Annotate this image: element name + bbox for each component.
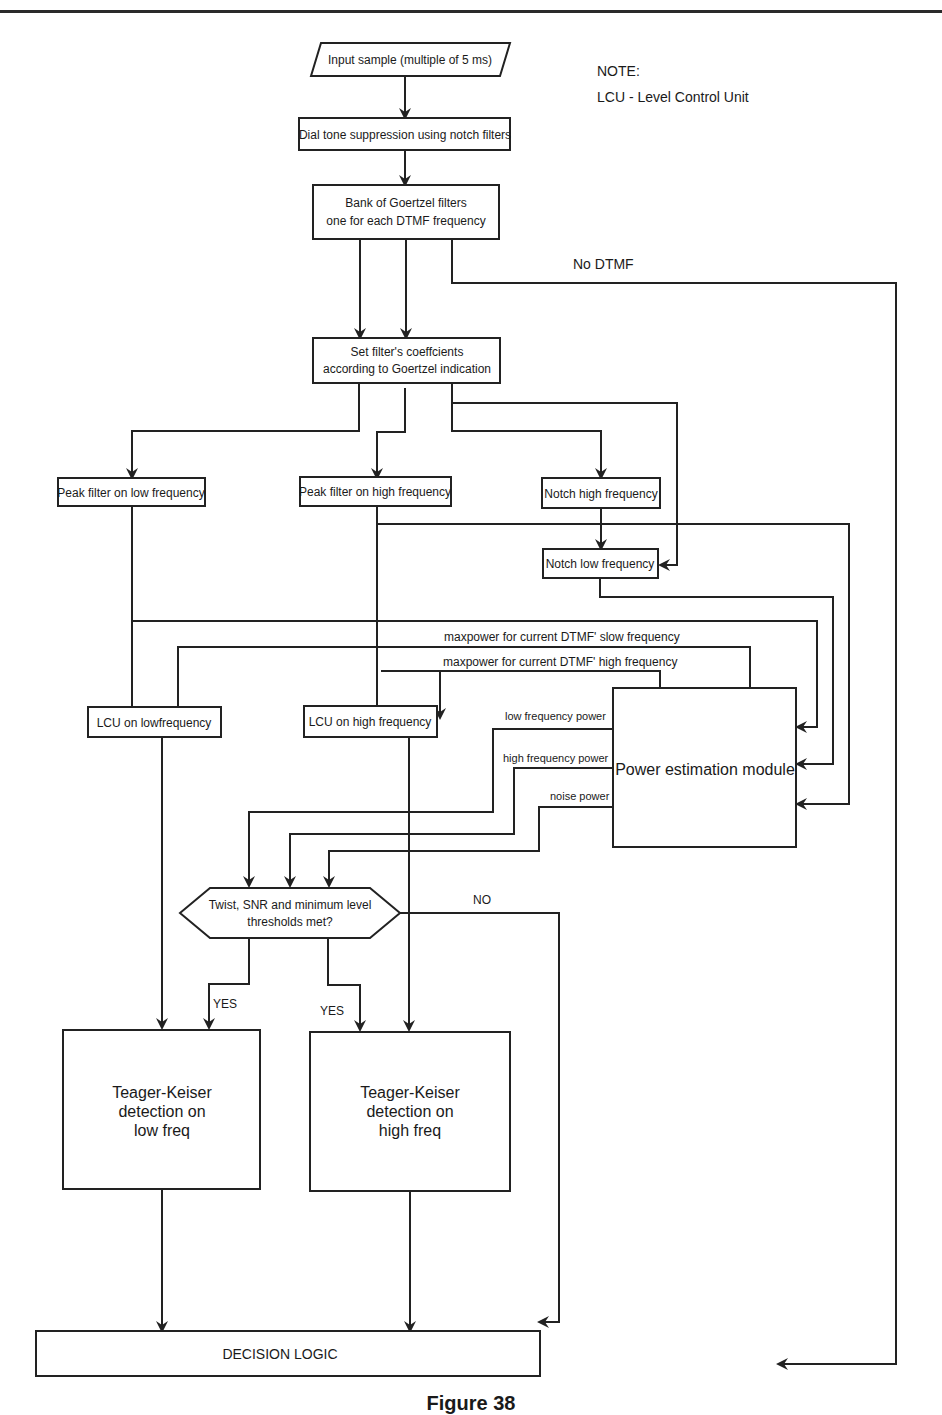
- edge-yes-left: [209, 938, 249, 1028]
- node-notch-high: Notch high frequency: [542, 478, 660, 508]
- node-tk-low-label-1: Teager-Keiser: [112, 1084, 212, 1101]
- node-lcu-low-label: LCU on lowfrequency: [97, 716, 212, 730]
- node-peak-low-label: Peak filter on low frequency: [57, 486, 204, 500]
- node-coeff-label-2: according to Goertzel indication: [323, 362, 491, 376]
- label-low-power: low frequency power: [505, 710, 606, 722]
- node-peak-high-label: Peak filter on high frequency: [299, 485, 451, 499]
- node-power-estimation-label: Power estimation module: [615, 761, 795, 778]
- node-decision-label-1: Twist, SNR and minimum level: [209, 898, 372, 912]
- node-set-coefficients: Set filter's coeffcients according to Go…: [313, 338, 500, 383]
- edge-coeff-to-peak-low: [132, 383, 359, 478]
- node-tk-low-label-3: low freq: [134, 1122, 190, 1139]
- node-dial-tone: Dial tone suppression using notch filter…: [299, 118, 511, 150]
- node-lcu-low: LCU on lowfrequency: [88, 707, 221, 737]
- label-high-power: high frequency power: [503, 752, 609, 764]
- label-yes-right: YES: [320, 1004, 344, 1018]
- node-goertzel-label-1: Bank of Goertzel filters: [345, 196, 466, 210]
- node-lcu-high: LCU on high frequency: [304, 706, 437, 737]
- node-input: Input sample (multiple of 5 ms): [311, 43, 510, 76]
- note-text: LCU - Level Control Unit: [597, 84, 749, 110]
- node-coeff-label-1: Set filter's coeffcients: [351, 345, 464, 359]
- node-tk-high-label-3: high freq: [379, 1122, 441, 1139]
- node-lcu-high-label: LCU on high frequency: [309, 715, 432, 729]
- node-decision-label-2: thresholds met?: [247, 915, 333, 929]
- node-power-estimation: Power estimation module: [613, 688, 796, 847]
- label-maxpower-high: maxpower for current DTMF' high frequenc…: [443, 655, 677, 669]
- node-notch-low-label: Notch low frequency: [546, 557, 655, 571]
- label-no-dtmf: No DTMF: [573, 256, 634, 272]
- note-heading: NOTE:: [597, 58, 749, 84]
- edge-coeff-to-peak-high: [377, 388, 405, 478]
- node-tk-high-label-1: Teager-Keiser: [360, 1084, 460, 1101]
- node-peak-high: Peak filter on high frequency: [299, 477, 451, 506]
- node-tk-high: Teager-Keiser detection on high freq: [310, 1032, 510, 1191]
- node-decision-logic-label: DECISION LOGIC: [222, 1346, 337, 1362]
- label-yes-left: YES: [213, 997, 237, 1011]
- node-goertzel-label-2: one for each DTMF frequency: [326, 214, 485, 228]
- node-notch-low: Notch low frequency: [543, 549, 658, 578]
- node-tk-high-label-2: detection on: [366, 1103, 453, 1120]
- node-threshold-decision: Twist, SNR and minimum level thresholds …: [180, 888, 400, 938]
- edge-maxpower-high-h: [381, 671, 660, 688]
- node-goertzel-bank: Bank of Goertzel filters one for each DT…: [313, 185, 499, 239]
- node-peak-low: Peak filter on low frequency: [57, 478, 205, 506]
- edge-noise-power: [329, 807, 613, 886]
- label-noise-power: noise power: [550, 790, 610, 802]
- edge-high-power: [290, 768, 613, 886]
- node-tk-low-label-2: detection on: [118, 1103, 205, 1120]
- figure-caption: Figure 38: [0, 1392, 942, 1415]
- label-maxpower-low: maxpower for current DTMF' slow frequenc…: [444, 630, 680, 644]
- label-no: NO: [473, 893, 491, 907]
- node-tk-low: Teager-Keiser detection on low freq: [63, 1030, 260, 1189]
- node-decision-logic: DECISION LOGIC: [36, 1331, 540, 1376]
- node-input-label: Input sample (multiple of 5 ms): [328, 53, 492, 67]
- edge-coeff-to-notch-high: [452, 383, 601, 478]
- node-dial-tone-label: Dial tone suppression using notch filter…: [299, 128, 511, 142]
- node-notch-high-label: Notch high frequency: [544, 487, 657, 501]
- note-block: NOTE: LCU - Level Control Unit: [597, 58, 749, 110]
